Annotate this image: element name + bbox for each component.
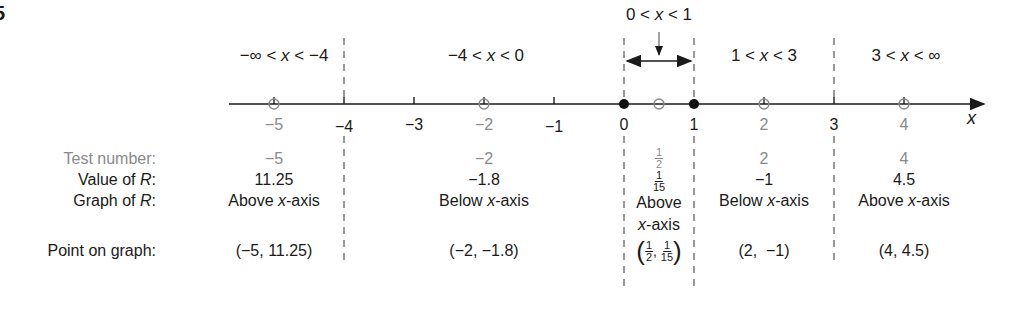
region-label-1: −∞ < x < −4 bbox=[240, 46, 329, 66]
region-label-5: 3 < x < ∞ bbox=[872, 46, 941, 66]
row-label-test-number: Test number: bbox=[64, 150, 156, 168]
graph-of-r: Below x-axis bbox=[719, 192, 809, 210]
test-number: 2 bbox=[760, 150, 769, 168]
graph-of-r: Above x-axis bbox=[636, 192, 681, 236]
value-of-r: −1 bbox=[755, 171, 773, 189]
point-on-graph: (2, −1) bbox=[738, 242, 789, 260]
tick-label: −4 bbox=[335, 118, 353, 136]
tick-label: 1 bbox=[690, 116, 699, 134]
tick-label: −1 bbox=[545, 118, 563, 136]
axis-variable-label: x bbox=[967, 108, 976, 129]
value-of-r: −1.8 bbox=[468, 171, 500, 189]
tick-label: 2 bbox=[760, 116, 769, 134]
filled-dot-icon bbox=[619, 99, 629, 109]
point-on-graph: (4, 4.5) bbox=[879, 242, 930, 260]
filled-dot-icon bbox=[689, 99, 699, 109]
value-of-r: 4.5 bbox=[893, 171, 915, 189]
tick-label: −2 bbox=[475, 116, 493, 134]
region-label-3: 0 < x < 1 bbox=[626, 5, 692, 25]
graph-of-r: Above x-axis bbox=[228, 192, 320, 210]
test-number: −5 bbox=[265, 150, 283, 168]
graph-of-r: Above x-axis bbox=[858, 192, 950, 210]
point-on-graph: (−5, 11.25) bbox=[236, 242, 313, 260]
tick-label: 0 bbox=[620, 116, 629, 134]
region-label-2: −4 < x < 0 bbox=[448, 46, 524, 66]
row-label-value-of-r: Value of R: bbox=[78, 171, 156, 189]
value-of-r-fraction: 115 bbox=[653, 170, 665, 193]
region-label-4: 1 < x < 3 bbox=[731, 46, 797, 66]
value-of-r: 11.25 bbox=[255, 171, 294, 189]
tick-label: 3 bbox=[830, 116, 839, 134]
tick-label: 4 bbox=[900, 116, 909, 134]
tick-label: −5 bbox=[265, 116, 283, 134]
row-label-graph-of-r: Graph of R: bbox=[73, 192, 156, 210]
point-on-graph-fraction: (12, 115) bbox=[636, 238, 682, 264]
test-number: 4 bbox=[900, 150, 909, 168]
test-number: −2 bbox=[475, 150, 493, 168]
tick-marks bbox=[274, 97, 904, 104]
tick-label: −3 bbox=[405, 116, 423, 134]
graph-of-r: Below x-axis bbox=[439, 192, 529, 210]
row-label-point-on-graph: Point on graph: bbox=[47, 242, 156, 260]
test-number-fraction: 12 bbox=[655, 147, 663, 170]
point-on-graph: (−2, −1.8) bbox=[449, 242, 518, 260]
